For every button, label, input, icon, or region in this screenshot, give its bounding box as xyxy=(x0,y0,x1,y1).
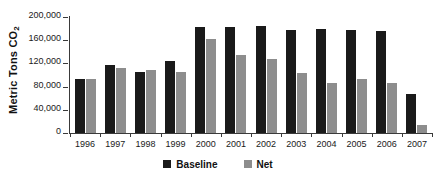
x-axis-tick-label-1996: 1996 xyxy=(70,139,100,149)
y-axis-title-subscript: 2 xyxy=(12,26,21,31)
x-axis-tick-mark xyxy=(372,133,373,137)
bar-net-2000 xyxy=(206,39,216,133)
x-axis-tick-mark xyxy=(311,133,312,137)
x-axis-tick-mark xyxy=(100,133,101,137)
y-axis-tick-label: 40,000 xyxy=(33,103,61,113)
bar-net-1998 xyxy=(146,70,156,133)
bar-net-1999 xyxy=(176,72,186,133)
x-axis-tick-mark xyxy=(70,133,71,137)
y-axis-title: Metric Tons CO2 xyxy=(0,0,26,140)
x-axis-tick-mark xyxy=(402,133,403,137)
chart-legend: BaselineNet xyxy=(0,155,436,173)
x-axis-tick-mark xyxy=(191,133,192,137)
bar-baseline-2007 xyxy=(406,94,416,133)
x-axis-tick-label-2001: 2001 xyxy=(221,139,251,149)
x-axis-tick-mark xyxy=(432,133,433,137)
bar-chart-figure: Metric Tons CO2 040,00080,000120,000160,… xyxy=(0,0,436,179)
bar-baseline-2005 xyxy=(346,30,356,133)
bar-baseline-1997 xyxy=(105,65,115,133)
bar-baseline-2001 xyxy=(225,27,235,133)
bar-baseline-2003 xyxy=(286,30,296,133)
legend-swatch-net-icon xyxy=(244,160,252,168)
bar-baseline-2004 xyxy=(316,29,326,133)
bar-net-1997 xyxy=(116,68,126,133)
y-axis-tick-mark xyxy=(63,40,68,41)
bar-net-2004 xyxy=(327,83,337,133)
bar-baseline-1998 xyxy=(135,72,145,133)
bar-net-2007 xyxy=(417,125,427,133)
bar-baseline-2000 xyxy=(195,27,205,133)
y-axis-tick-label: 80,000 xyxy=(33,80,61,90)
bar-net-2002 xyxy=(267,59,277,133)
y-axis-tick-label: 0 xyxy=(56,126,61,136)
x-axis-tick-label-1998: 1998 xyxy=(130,139,160,149)
y-axis-tick-label: 160,000 xyxy=(28,33,61,43)
x-axis-tick-label-2007: 2007 xyxy=(402,139,432,149)
x-axis-tick-label-1997: 1997 xyxy=(100,139,130,149)
x-axis-tick-mark xyxy=(161,133,162,137)
y-axis-tick-mark xyxy=(63,133,68,134)
bar-net-1996 xyxy=(86,79,96,133)
x-axis-tick-label-2003: 2003 xyxy=(281,139,311,149)
legend-entry-net[interactable]: Net xyxy=(244,159,273,170)
bar-net-2001 xyxy=(236,55,246,133)
bar-baseline-1999 xyxy=(165,61,175,134)
bar-baseline-2002 xyxy=(256,26,266,133)
bar-baseline-2006 xyxy=(376,31,386,133)
bar-net-2005 xyxy=(357,79,367,133)
legend-entry-baseline[interactable]: Baseline xyxy=(163,159,217,170)
x-axis-tick-label-2000: 2000 xyxy=(191,139,221,149)
y-axis-tick-mark xyxy=(63,63,68,64)
x-axis-tick-mark xyxy=(342,133,343,137)
y-axis-tick-mark xyxy=(63,87,68,88)
bar-net-2006 xyxy=(387,83,397,133)
legend-label-baseline: Baseline xyxy=(176,159,217,170)
y-axis-tick-label: 200,000 xyxy=(28,10,61,20)
legend-swatch-baseline-icon xyxy=(163,160,171,168)
y-axis-tick-mark xyxy=(63,110,68,111)
plot-area xyxy=(70,17,432,133)
x-axis-tick-label-2002: 2002 xyxy=(251,139,281,149)
y-axis-tick-label: 120,000 xyxy=(28,56,61,66)
x-axis-tick-mark xyxy=(221,133,222,137)
y-axis-title-text: Metric Tons CO xyxy=(7,31,19,114)
bar-net-2003 xyxy=(297,73,307,133)
x-axis-tick-label-2004: 2004 xyxy=(311,139,341,149)
x-axis-tick-label-2006: 2006 xyxy=(372,139,402,149)
x-axis-tick-mark xyxy=(251,133,252,137)
legend-label-net: Net xyxy=(257,159,273,170)
bar-baseline-1996 xyxy=(75,79,85,133)
x-axis-tick-label-2005: 2005 xyxy=(342,139,372,149)
y-axis-tick-mark xyxy=(63,17,68,18)
x-axis-tick-mark xyxy=(130,133,131,137)
x-axis-tick-mark xyxy=(281,133,282,137)
x-axis-tick-label-1999: 1999 xyxy=(161,139,191,149)
